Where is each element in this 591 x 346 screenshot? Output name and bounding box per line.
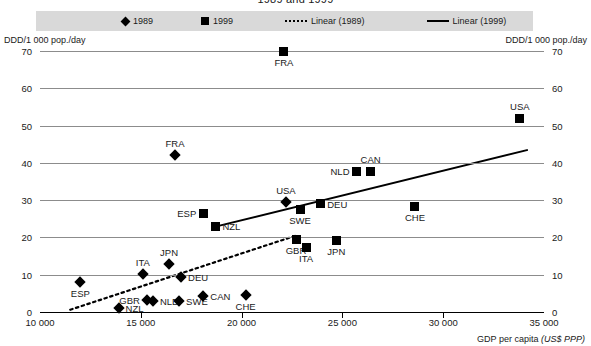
square-marker-icon <box>332 236 341 245</box>
gridline <box>40 126 544 127</box>
legend-item-linear-1989[interactable]: Linear (1989) <box>285 16 365 26</box>
x-axis-line <box>40 312 544 313</box>
data-point-label: CHE <box>236 301 256 312</box>
x-axis-tick-label: 15 000 <box>126 317 155 328</box>
square-marker-icon <box>410 202 419 211</box>
y-axis-label-left: DDD/1 000 pop./day <box>4 35 86 45</box>
square-marker-icon <box>201 17 209 25</box>
data-point-label: USA <box>510 101 530 112</box>
y-axis-tick-label: 20 <box>21 232 32 243</box>
y-axis-tick-label: 50 <box>21 120 32 131</box>
x-axis-label-main: GDP per capita <box>477 334 541 344</box>
legend-label: 1999 <box>213 16 233 26</box>
data-point-label: DEU <box>188 272 208 283</box>
square-marker-icon <box>302 243 311 252</box>
data-point-label: USA <box>276 185 296 196</box>
data-point-label: ITA <box>299 253 313 264</box>
y-axis-tick-label: 0 <box>27 307 32 318</box>
data-point-label: CAN <box>210 290 230 301</box>
y-axis-tick-label: 0 <box>552 307 557 318</box>
data-point-label: JPN <box>327 246 345 257</box>
gridline <box>40 51 544 52</box>
y-axis-tick-label: 70 <box>21 46 32 57</box>
gridline <box>40 88 544 89</box>
y-axis-tick-label: 20 <box>552 232 563 243</box>
x-axis-tick-label: 10 000 <box>25 317 54 328</box>
data-point-label: ESP <box>71 288 90 299</box>
legend-label: Linear (1999) <box>453 16 507 26</box>
diamond-marker-icon <box>121 16 131 26</box>
x-axis-tick-label: 35 000 <box>529 317 558 328</box>
data-point-label: ESP <box>177 208 196 219</box>
square-marker-icon <box>292 235 301 244</box>
square-marker-icon <box>199 209 208 218</box>
y-axis-tick-label: 40 <box>21 157 32 168</box>
data-point-label: SWE <box>289 215 311 226</box>
square-marker-icon <box>316 199 325 208</box>
chart-legend: 1989 1999 Linear (1989) Linear (1999) <box>36 11 533 31</box>
page-title: 1989 and 1999 <box>0 0 591 5</box>
x-axis-label-unit: (US$ PPP) <box>541 334 585 344</box>
legend-label: 1989 <box>133 16 153 26</box>
y-axis-tick-label: 60 <box>21 83 32 94</box>
legend-label: Linear (1989) <box>311 16 365 26</box>
square-marker-icon <box>211 222 220 231</box>
square-marker-icon <box>515 114 524 123</box>
x-axis-tick-label: 30 000 <box>429 317 458 328</box>
solid-line-icon <box>427 20 449 22</box>
x-axis-tick-label: 20 000 <box>227 317 256 328</box>
y-axis-tick-label: 30 <box>21 195 32 206</box>
y-axis-tick-label: 10 <box>552 269 563 280</box>
gridline <box>40 275 544 276</box>
square-marker-icon <box>366 167 375 176</box>
data-point-label: CHE <box>405 212 425 223</box>
x-axis-tick-label: 25 000 <box>328 317 357 328</box>
data-point-label: CAN <box>361 154 381 165</box>
y-axis-tick-label: 10 <box>21 269 32 280</box>
x-axis-label: GDP per capita (US$ PPP) <box>477 334 585 344</box>
square-marker-icon <box>279 47 288 56</box>
chart-page: 1989 and 1999 1989 1999 Linear (1989) Li… <box>0 0 591 346</box>
y-axis-label-right: DDD/1 000 pop./day <box>505 35 587 45</box>
data-point-label: NLD <box>330 166 349 177</box>
gridline <box>40 163 544 164</box>
data-point-label: DEU <box>327 198 347 209</box>
square-marker-icon <box>352 167 361 176</box>
data-point-label: ITA <box>136 257 150 268</box>
trendlines-layer <box>40 51 544 312</box>
gridline <box>40 200 544 201</box>
data-point-label: JPN <box>160 247 178 258</box>
dashed-line-icon <box>285 20 307 22</box>
data-point-label: NZL <box>222 221 240 232</box>
y-axis-tick-label: 50 <box>552 120 563 131</box>
y-axis-tick-label: 40 <box>552 157 563 168</box>
legend-item-1999[interactable]: 1999 <box>201 16 233 26</box>
y-axis-tick-label: 30 <box>552 195 563 206</box>
legend-item-1989[interactable]: 1989 <box>122 16 153 26</box>
data-point-label: FRA <box>274 57 293 68</box>
square-marker-icon <box>296 205 305 214</box>
y-axis-tick-label: 60 <box>552 83 563 94</box>
data-point-label: FRA <box>166 138 185 149</box>
legend-item-linear-1999[interactable]: Linear (1999) <box>427 16 507 26</box>
y-axis-tick-label: 70 <box>552 46 563 57</box>
data-point-label: GBR <box>119 295 140 306</box>
plot-area: 00101020203030404050506060707010 00015 0… <box>40 51 544 312</box>
